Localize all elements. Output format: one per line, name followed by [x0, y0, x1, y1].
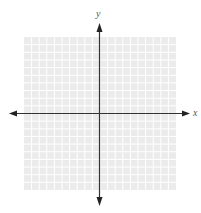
x-axis-right-arrow-icon: [182, 111, 190, 117]
x-axis-label: x: [193, 108, 197, 118]
y-axis-down-arrow-icon: [97, 197, 103, 206]
y-axis-label: y: [96, 9, 100, 19]
coordinate-plane: [0, 0, 201, 213]
x-axis-left-arrow-icon: [9, 111, 17, 117]
y-axis-up-arrow-icon: [97, 23, 103, 32]
